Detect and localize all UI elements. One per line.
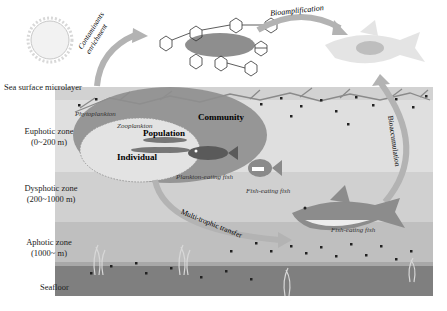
aphotic-zone-label: Aphotic zone (1000~ m) bbox=[20, 237, 78, 259]
enrichment-arrow bbox=[97, 28, 148, 86]
seafloor-band bbox=[55, 266, 433, 296]
phytoplankton-label: Phytoplankton bbox=[75, 110, 116, 118]
fish-eating-fish-label-1: Fish-eating fish bbox=[246, 187, 290, 195]
individual-label: Individual bbox=[117, 152, 157, 162]
seafloor-label: Seafloor bbox=[40, 282, 69, 293]
dysphotic-zone-label: Dysphotic zone (200~1000 m) bbox=[20, 183, 82, 205]
diagram-canvas bbox=[0, 0, 447, 311]
sun-icon bbox=[28, 18, 72, 62]
plankton-eating-fish-label: Plankton-eating fish bbox=[176, 173, 233, 181]
fish-eating-fish-label-2: Fish-eating fish bbox=[331, 226, 375, 234]
aphotic-band bbox=[55, 222, 433, 264]
surface-microlayer-label: Sea surface microlayer bbox=[4, 82, 82, 93]
euphotic-zone-label: Euphotic zone (0~200 m) bbox=[20, 126, 78, 148]
community-label: Community bbox=[198, 112, 244, 122]
population-label: Population bbox=[143, 128, 185, 138]
